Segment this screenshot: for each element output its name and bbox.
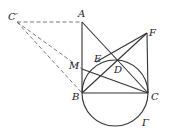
label-C: C <box>151 91 159 102</box>
label-Cprime: C′ <box>8 11 19 22</box>
dashed-CpB <box>17 22 82 93</box>
segment-AC <box>82 22 148 93</box>
label-E: E <box>93 53 102 64</box>
label-A: A <box>77 8 85 19</box>
geometry-figure: C′ A F E M D B C Γ <box>0 0 170 137</box>
segment-BF <box>82 33 147 93</box>
label-Gamma: Γ <box>141 117 150 128</box>
label-M: M <box>68 60 80 71</box>
label-F: F <box>148 27 157 38</box>
label-D: D <box>113 64 122 75</box>
label-B: B <box>71 91 79 102</box>
segment-EF <box>96 33 147 62</box>
